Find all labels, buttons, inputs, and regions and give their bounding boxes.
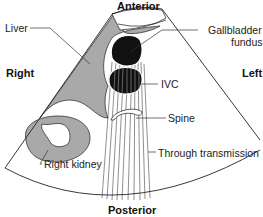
gallbladder-label-line2: fundus	[231, 36, 263, 48]
left-label: Left	[242, 67, 262, 79]
ultrasound-diagram: Anterior Right Left Posterior Liver Gall…	[0, 0, 263, 217]
liver-label: Liver	[5, 22, 28, 34]
gallbladder-shape	[111, 36, 142, 67]
right-label: Right	[6, 67, 34, 79]
ivc-label: IVC	[161, 78, 179, 90]
spine-label: Spine	[168, 112, 195, 124]
anterior-label: Anterior	[117, 0, 160, 12]
gallbladder-label-line1: Gallbladder	[208, 24, 262, 36]
ivc-shape	[109, 68, 142, 95]
right-kidney-label: Right kidney	[44, 158, 102, 170]
spine-shape	[111, 109, 142, 120]
posterior-label: Posterior	[108, 204, 156, 216]
through-transmission-label: Through transmission	[158, 147, 259, 159]
right-kidney-shape	[25, 116, 90, 162]
